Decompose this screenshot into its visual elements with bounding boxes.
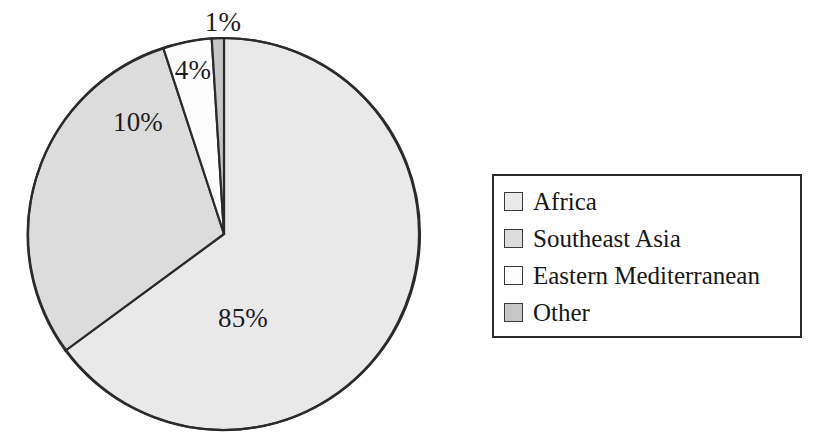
pie-label-other: 1%	[205, 7, 241, 38]
legend-swatch-southeast-asia-icon	[504, 229, 523, 248]
pie-label-eastern-mediterranean: 4%	[175, 55, 211, 86]
legend-label-africa: Africa	[533, 189, 597, 214]
legend-item-other[interactable]: Other	[504, 294, 800, 331]
pie-graphic: 85% 10% 4% 1%	[0, 0, 470, 445]
pie-svg	[0, 0, 470, 445]
legend-item-southeast-asia[interactable]: Southeast Asia	[504, 220, 800, 257]
legend-swatch-other-icon	[504, 303, 523, 322]
pie-label-southeast-asia: 10%	[113, 107, 163, 138]
legend-label-southeast-asia: Southeast Asia	[533, 226, 681, 251]
legend-item-africa[interactable]: Africa	[504, 183, 800, 220]
pie-label-africa: 85%	[218, 303, 268, 334]
legend-swatch-eastern-mediterranean-icon	[504, 266, 523, 285]
legend: Africa Southeast Asia Eastern Mediterran…	[492, 174, 802, 338]
legend-swatch-africa-icon	[504, 192, 523, 211]
pie-chart-figure: 85% 10% 4% 1% Africa Southeast Asia East…	[0, 0, 821, 445]
legend-label-other: Other	[533, 300, 590, 325]
legend-label-eastern-mediterranean: Eastern Mediterranean	[533, 263, 760, 288]
legend-item-eastern-mediterranean[interactable]: Eastern Mediterranean	[504, 257, 800, 294]
